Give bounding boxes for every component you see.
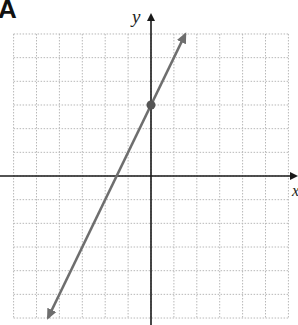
intercept-point	[147, 100, 156, 109]
coordinate-plane: x	[0, 0, 298, 325]
x-axis-label: x	[291, 182, 298, 199]
point-marker	[147, 100, 156, 109]
axes: x	[0, 17, 298, 325]
